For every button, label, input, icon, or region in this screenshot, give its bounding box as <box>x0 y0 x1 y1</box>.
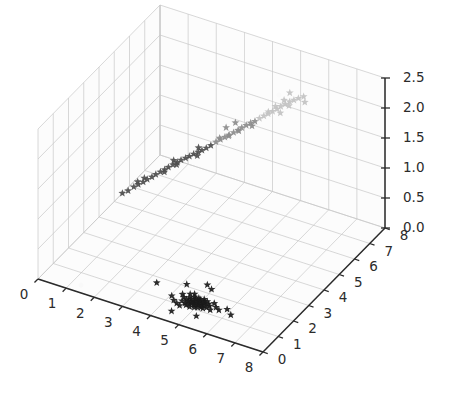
y-tick-label-0: 0 <box>278 353 287 367</box>
chart-svg <box>0 0 450 396</box>
x-tick-label-0: 0 <box>20 289 29 303</box>
x-tick-label-8: 8 <box>245 362 254 376</box>
y-tick-label-5: 5 <box>354 276 363 290</box>
x-tick-label-6: 6 <box>188 343 197 357</box>
y-tick-label-3: 3 <box>323 307 332 321</box>
x-tick-label-4: 4 <box>132 325 141 339</box>
x-tick-label-2: 2 <box>76 307 85 321</box>
chart-canvas: 0123456780123456780.00.51.01.52.02.5 <box>0 0 450 396</box>
x-tick-label-7: 7 <box>217 352 226 366</box>
z-tick-label-0-5: 0.5 <box>403 191 424 205</box>
z-tick-label-2-0: 2.0 <box>403 101 424 115</box>
y-tick-label-4: 4 <box>339 291 348 305</box>
z-tick-label-1-5: 1.5 <box>403 131 424 145</box>
x-tick-label-1: 1 <box>48 298 57 312</box>
z-tick-label-1-0: 1.0 <box>403 161 424 175</box>
x-tick-label-5: 5 <box>160 334 169 348</box>
y-tick-label-1: 1 <box>293 338 302 352</box>
z-tick-label-0-0: 0.0 <box>403 221 424 235</box>
x-tick-label-3: 3 <box>104 316 113 330</box>
y-tick-label-7: 7 <box>384 245 393 259</box>
y-tick-label-6: 6 <box>369 260 378 274</box>
y-tick-label-2: 2 <box>308 322 317 336</box>
z-tick-label-2-5: 2.5 <box>403 71 424 85</box>
